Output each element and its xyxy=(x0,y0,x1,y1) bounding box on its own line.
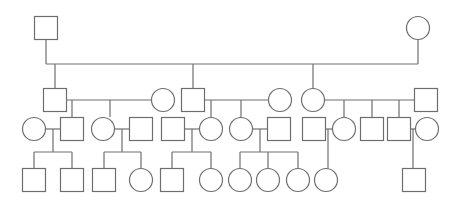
male-square-icon xyxy=(61,118,84,141)
male-square-icon xyxy=(303,118,326,141)
individuals xyxy=(23,17,439,192)
female-circle-icon xyxy=(407,17,430,40)
pedigree-diagram xyxy=(0,0,461,205)
male-square-icon xyxy=(23,169,46,192)
female-circle-icon xyxy=(230,118,253,141)
male-square-icon xyxy=(161,169,184,192)
female-circle-icon xyxy=(200,169,223,192)
male-square-icon xyxy=(44,89,67,112)
female-circle-icon xyxy=(200,118,223,141)
male-square-icon xyxy=(388,118,411,141)
female-circle-icon xyxy=(23,118,46,141)
female-circle-icon xyxy=(269,89,292,112)
male-square-icon xyxy=(268,118,291,141)
male-square-icon xyxy=(361,118,384,141)
male-square-icon xyxy=(182,89,205,112)
male-square-icon xyxy=(162,118,185,141)
female-circle-icon xyxy=(287,169,310,192)
female-circle-icon xyxy=(315,169,338,192)
male-square-icon xyxy=(93,169,116,192)
female-circle-icon xyxy=(416,118,439,141)
female-circle-icon xyxy=(130,169,153,192)
male-square-icon xyxy=(35,17,58,40)
male-square-icon xyxy=(403,169,426,192)
female-circle-icon xyxy=(257,169,280,192)
female-circle-icon xyxy=(152,89,175,112)
female-circle-icon xyxy=(229,169,252,192)
male-square-icon xyxy=(61,169,84,192)
male-square-icon xyxy=(415,89,438,112)
female-circle-icon xyxy=(92,118,115,141)
female-circle-icon xyxy=(302,89,325,112)
female-circle-icon xyxy=(333,118,356,141)
relationship-lines xyxy=(34,40,418,168)
male-square-icon xyxy=(130,118,153,141)
